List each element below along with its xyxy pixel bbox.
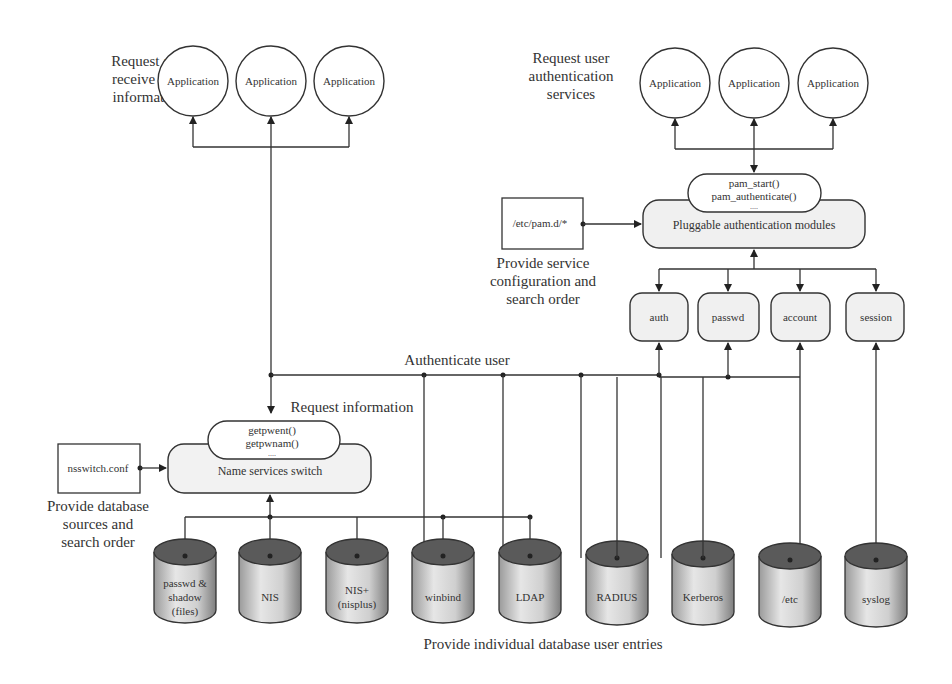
svg-text:getpwent(): getpwent()	[248, 424, 296, 437]
nss-application-3: Application	[314, 46, 384, 116]
svg-text:NIS+: NIS+	[345, 584, 369, 596]
svg-text:RADIUS: RADIUS	[597, 591, 638, 603]
nss-api-calls: getpwent() getpwnam() ....	[208, 421, 340, 459]
module-passwd: passwd	[698, 293, 759, 341]
nsswitch-config-file: nsswitch.conf	[58, 444, 166, 493]
svg-text:Application: Application	[649, 77, 701, 89]
svg-text:Application: Application	[728, 77, 780, 89]
nss-application-1: Application	[158, 46, 228, 116]
module-session: session	[846, 293, 904, 341]
svg-text:session: session	[860, 311, 892, 323]
pam-api-calls: pam_start() pam_authenticate() ....	[688, 174, 821, 212]
database-ldap: LDAP	[499, 539, 561, 623]
svg-text:nsswitch.conf: nsswitch.conf	[68, 462, 129, 474]
svg-text:Provide service: Provide service	[497, 255, 590, 271]
nss-pam-diagram: Request and receive user information App…	[0, 0, 952, 684]
svg-text:Name services switch: Name services switch	[218, 464, 323, 478]
database-passwd-shadow: passwd & shadow (files)	[154, 539, 216, 623]
svg-text:auth: auth	[650, 311, 669, 323]
svg-text:LDAP: LDAP	[516, 591, 545, 603]
svg-text:search order: search order	[61, 534, 135, 550]
svg-text:syslog: syslog	[862, 593, 891, 605]
svg-text:authentication: authentication	[529, 68, 614, 84]
svg-text:Request user: Request user	[532, 50, 609, 66]
request-information-label: Request information	[291, 399, 414, 415]
svg-text:(files): (files)	[172, 605, 199, 618]
svg-text:passwd: passwd	[712, 311, 745, 323]
svg-text:Application: Application	[807, 77, 859, 89]
database-winbind: winbind	[412, 539, 474, 623]
nss-config-caption: Provide database sources and search orde…	[47, 498, 149, 550]
svg-text:....: ....	[750, 202, 758, 211]
svg-text:winbind: winbind	[425, 591, 462, 603]
svg-text:search order: search order	[506, 291, 580, 307]
database-nisplus: NIS+ (nisplus)	[326, 539, 388, 623]
nss-app-connectors	[193, 117, 349, 413]
database-nis: NIS	[239, 539, 301, 623]
pam-config-caption: Provide service configuration and search…	[490, 255, 597, 307]
svg-text:NIS: NIS	[261, 591, 279, 603]
authenticate-label: Authenticate user	[404, 352, 509, 368]
pam-module-connectors	[659, 250, 876, 291]
svg-text:sources and: sources and	[63, 516, 134, 532]
nss-application-2: Application	[236, 46, 306, 116]
svg-text:Provide database: Provide database	[47, 498, 149, 514]
svg-text:(nisplus): (nisplus)	[338, 598, 377, 611]
pam-application-2: Application	[719, 48, 789, 118]
svg-text:Pluggable authentication modul: Pluggable authentication modules	[673, 218, 836, 232]
svg-text:services: services	[547, 86, 595, 102]
svg-text:Application: Application	[245, 75, 297, 87]
pam-app-connectors	[675, 119, 833, 172]
pam-config-file: /etc/pam.d/*	[502, 198, 641, 249]
database-etc: /etc	[759, 543, 821, 627]
svg-text:shadow: shadow	[168, 591, 202, 603]
svg-text:passwd &: passwd &	[163, 577, 207, 589]
svg-text:Application: Application	[167, 75, 219, 87]
module-account: account	[771, 293, 830, 341]
svg-text:pam_start(): pam_start()	[729, 177, 780, 190]
module-auth: auth	[630, 293, 688, 341]
auth-db-drops	[581, 375, 703, 558]
pam-application-3: Application	[798, 48, 868, 118]
svg-text:configuration and: configuration and	[490, 273, 597, 289]
svg-text:/etc: /etc	[782, 593, 798, 605]
svg-text:....: ....	[268, 449, 276, 458]
svg-text:Kerberos: Kerberos	[683, 591, 723, 603]
databases-caption: Provide individual database user entries	[423, 636, 662, 652]
svg-text:/etc/pam.d/*: /etc/pam.d/*	[513, 217, 568, 229]
database-syslog: syslog	[845, 543, 907, 627]
pam-caption: Request user authentication services	[529, 50, 614, 102]
svg-text:Application: Application	[323, 75, 375, 87]
pam-application-1: Application	[640, 48, 710, 118]
svg-text:account: account	[783, 311, 817, 323]
